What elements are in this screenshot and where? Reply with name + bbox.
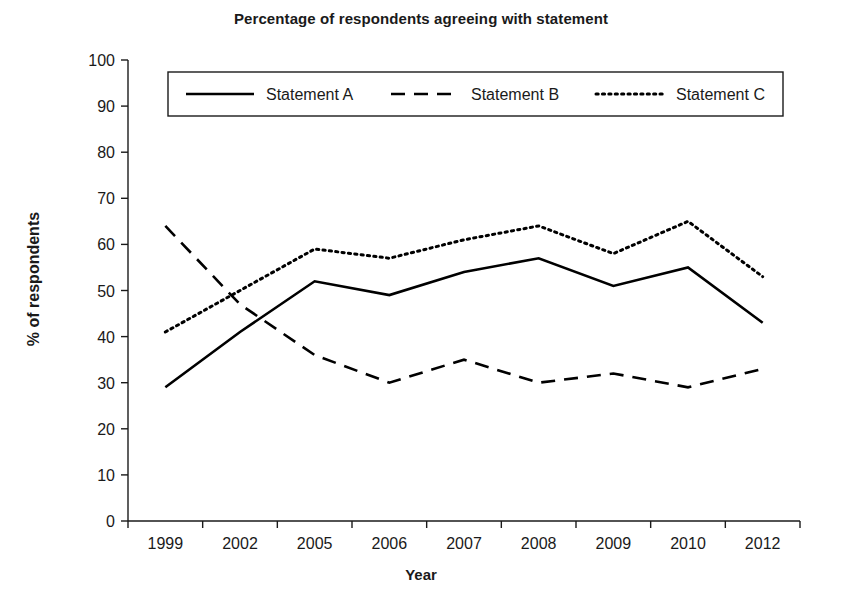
y-axis-ticks: 0102030405060708090100 (88, 52, 128, 530)
chart-plot-area: 0102030405060708090100 19992002200520062… (0, 0, 842, 603)
x-tick-label: 2006 (372, 535, 408, 552)
y-tick-label: 10 (97, 467, 115, 484)
legend-label-3: Statement C (676, 86, 765, 103)
x-tick-label: 2007 (446, 535, 482, 552)
legend-label-2: Statement B (471, 86, 559, 103)
chart-container: Percentage of respondents agreeing with … (0, 0, 842, 603)
y-tick-label: 70 (97, 190, 115, 207)
y-tick-label: 30 (97, 375, 115, 392)
x-tick-label: 2009 (596, 535, 632, 552)
series-line-1 (165, 258, 762, 387)
x-tick-label: 2002 (222, 535, 258, 552)
data-series-group (165, 221, 762, 387)
x-tick-label: 2005 (297, 535, 333, 552)
chart-legend: Statement AStatement BStatement C (168, 72, 783, 116)
y-tick-label: 80 (97, 144, 115, 161)
x-tick-label: 2012 (745, 535, 781, 552)
x-tick-label: 2008 (521, 535, 557, 552)
x-axis-ticks: 199920022005200620072008200920102012 (128, 521, 800, 552)
y-tick-label: 100 (88, 52, 115, 69)
legend-label-1: Statement A (266, 86, 353, 103)
y-tick-label: 90 (97, 98, 115, 115)
y-tick-label: 40 (97, 329, 115, 346)
y-tick-label: 60 (97, 236, 115, 253)
y-tick-label: 20 (97, 421, 115, 438)
x-tick-label: 1999 (148, 535, 184, 552)
series-line-2 (165, 226, 762, 387)
x-tick-label: 2010 (670, 535, 706, 552)
y-tick-label: 0 (106, 513, 115, 530)
y-tick-label: 50 (97, 283, 115, 300)
